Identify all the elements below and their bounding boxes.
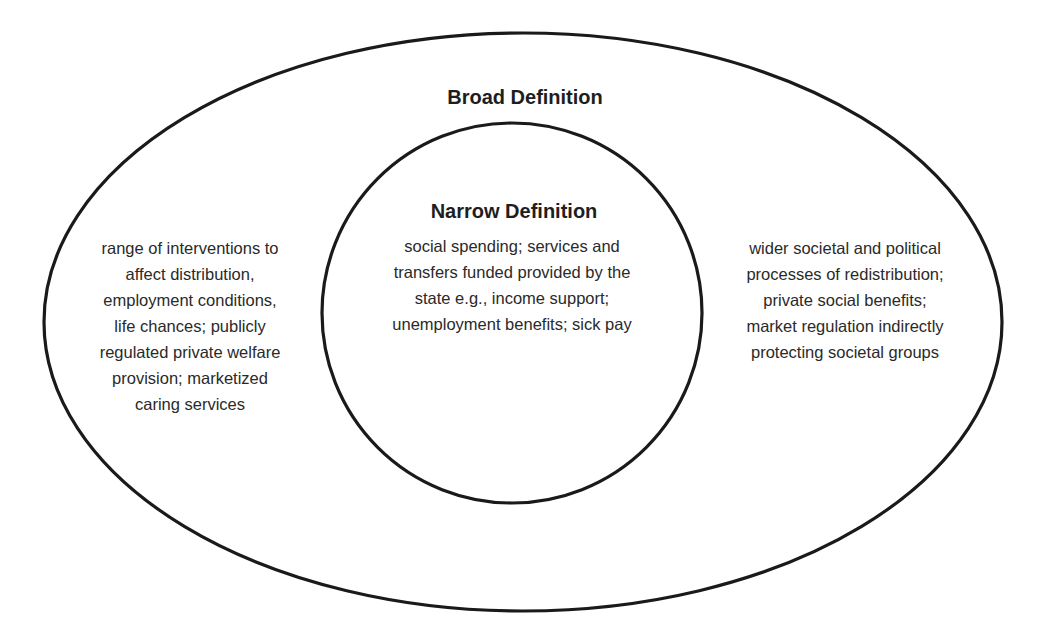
broad-left-text-line: provision; marketized [66, 365, 314, 391]
broad-right-text-line: market regulation indirectly [714, 313, 976, 339]
broad-left-text-line: life chances; publicly [66, 313, 314, 339]
narrow-text-line: transfers funded provided by the [356, 259, 668, 285]
broad-left-text-line: caring services [66, 391, 314, 417]
narrow-text-line: social spending; services and [356, 233, 668, 259]
broad-right-text-line: processes of redistribution; [714, 261, 976, 287]
broad-definition-right-description: wider societal and political processes o… [714, 235, 976, 365]
narrow-text-line: state e.g., income support; [356, 285, 668, 311]
broad-right-text-line: private social benefits; [714, 287, 976, 313]
diagram-canvas: Broad Definition Narrow Definition socia… [0, 0, 1037, 638]
broad-left-text-line: range of interventions to [66, 235, 314, 261]
narrow-text-line: unemployment benefits; sick pay [356, 311, 668, 337]
broad-definition-title: Broad Definition [412, 86, 638, 109]
broad-right-text-line: wider societal and political [714, 235, 976, 261]
broad-definition-left-description: range of interventions to affect distrib… [66, 235, 314, 417]
broad-left-text-line: affect distribution, [66, 261, 314, 287]
broad-left-text-line: employment conditions, [66, 287, 314, 313]
narrow-definition-title: Narrow Definition [406, 200, 622, 223]
narrow-definition-description: social spending; services and transfers … [356, 233, 668, 337]
broad-left-text-line: regulated private welfare [66, 339, 314, 365]
broad-right-text-line: protecting societal groups [714, 339, 976, 365]
